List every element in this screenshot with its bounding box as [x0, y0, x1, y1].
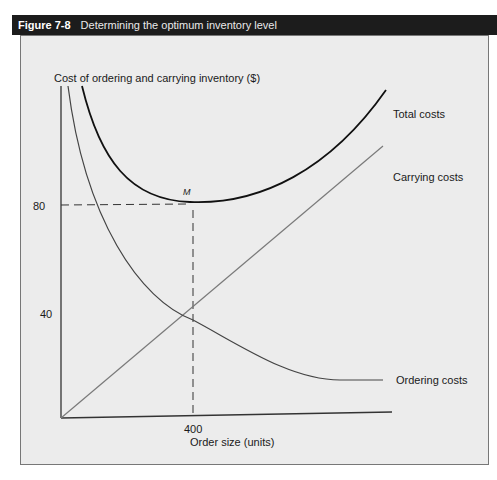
y-tick-40: 40	[40, 308, 52, 320]
y80-guide	[61, 204, 190, 205]
ordering-costs-curve	[68, 86, 383, 380]
legend-ordering-costs: Ordering costs	[396, 374, 468, 386]
y-axis-label: Cost of ordering and carrying inventory …	[54, 72, 260, 84]
x-tick-400: 400	[184, 423, 202, 435]
x-axis	[61, 412, 392, 418]
carrying-costs-line	[61, 146, 383, 418]
x-axis-label: Order size (units)	[190, 436, 274, 448]
legend-total-costs: Total costs	[393, 108, 445, 120]
legend-carrying-costs: Carrying costs	[393, 171, 464, 183]
optimum-point-label: M	[183, 187, 191, 197]
y-tick-80: 80	[33, 200, 45, 212]
chart: Cost of ordering and carrying inventory …	[0, 0, 497, 480]
total-costs-curve	[82, 86, 386, 202]
